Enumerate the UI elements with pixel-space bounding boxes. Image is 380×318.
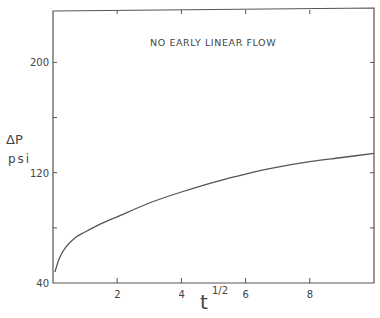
data-series [55, 153, 374, 272]
x-tick-label: 6 [243, 289, 249, 300]
chart: 2468 40120200 NO EARLY LINEAR FLOW ΔP ps… [0, 0, 380, 318]
y-axis-label: ΔP [6, 132, 23, 147]
x-tick-label: 2 [114, 289, 120, 300]
y-tick-label: 200 [30, 57, 49, 68]
y-axis-units: psi [8, 152, 31, 166]
y-tick-label: 120 [30, 168, 49, 179]
x-tick-label: 4 [178, 289, 184, 300]
y-axis-ticks: 40120200 [30, 57, 374, 289]
x-axis-label-superscript: 1/2 [212, 285, 228, 296]
axes-box [53, 8, 374, 283]
x-axis-ticks: 2468 [114, 10, 313, 300]
x-tick-label: 8 [307, 289, 313, 300]
chart-annotation: NO EARLY LINEAR FLOW [150, 37, 276, 48]
y-tick-label: 40 [36, 278, 49, 289]
series-line [55, 153, 374, 272]
plot-frame [53, 8, 374, 283]
x-axis-label: t [200, 290, 208, 314]
